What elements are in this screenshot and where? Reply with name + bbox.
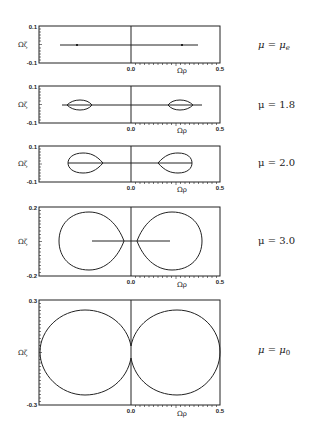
x-tick-zero: 0.0 [127, 126, 136, 132]
y-axis-label: Ωζ [18, 41, 28, 49]
x-tick-max: 0.5 [216, 408, 225, 414]
y-axis-label: Ωζ [18, 160, 28, 168]
figure: 0.1 -0.1 Ωζ 0.0 0.5 Ωρ μ = μe 0.1 -0.1 Ω… [0, 0, 311, 437]
mu-label: μ = 2.0 [258, 157, 295, 168]
panel-3: 0.1 -0.1 Ωζ 0.0 0.5 Ωρ μ = 2.0 [18, 144, 295, 194]
y-tick-top: 0.3 [29, 298, 38, 304]
x-tick-zero: 0.0 [127, 66, 136, 72]
x-axis-label: Ωρ [177, 186, 187, 194]
y-axis-label: Ωζ [18, 101, 28, 109]
y-axis-label: Ωζ [18, 238, 28, 246]
y-tick-top: 0.1 [29, 144, 38, 150]
mu-label: μ = μ0 [258, 344, 290, 357]
y-tick-top: 0.1 [29, 24, 38, 30]
y-tick-bottom: -0.1 [27, 179, 38, 185]
mu-label: μ = 3.0 [258, 235, 295, 246]
y-tick-bottom: -0.1 [27, 120, 38, 126]
x-tick-max: 0.5 [216, 185, 225, 191]
marker-right [181, 44, 183, 46]
x-axis-label: Ωρ [177, 67, 187, 75]
panel-2: 0.1 -0.1 Ωζ 0.0 0.5 Ωρ μ = 1.8 [18, 84, 295, 135]
x-tick-zero: 0.0 [127, 185, 136, 191]
x-axis-label: Ωρ [177, 281, 187, 289]
x-tick-zero: 0.0 [127, 279, 136, 285]
mu-label: μ = 1.8 [258, 99, 295, 110]
y-tick-top: 0.2 [29, 205, 38, 211]
y-axis-label: Ωζ [18, 349, 28, 357]
y-tick-bottom: -0.2 [27, 273, 38, 279]
y-tick-bottom: -0.1 [27, 60, 38, 66]
x-axis-label: Ωρ [177, 127, 187, 135]
mu-label: μ = μe [258, 39, 290, 52]
x-tick-zero: 0.0 [127, 408, 136, 414]
panel-4: 0.2 -0.2 Ωζ 0.0 0.5 Ωρ μ = 3.0 [18, 205, 295, 289]
plot-frame [39, 146, 220, 182]
y-tick-bottom: -0.3 [27, 402, 38, 408]
x-tick-max: 0.5 [216, 66, 225, 72]
x-tick-max: 0.5 [216, 279, 225, 285]
plot-frame [39, 300, 220, 405]
y-tick-top: 0.1 [29, 84, 38, 90]
orbit-loop-right [131, 310, 220, 395]
x-tick-max: 0.5 [216, 126, 225, 132]
marker-left [76, 44, 78, 46]
orbit-loop-left [40, 310, 131, 395]
x-axis-label: Ωρ [177, 410, 187, 418]
panel-1: 0.1 -0.1 Ωζ 0.0 0.5 Ωρ μ = μe [18, 24, 290, 75]
panel-5: 0.3 -0.3 Ωζ 0.0 0.5 Ωρ μ = μ0 [18, 298, 290, 418]
